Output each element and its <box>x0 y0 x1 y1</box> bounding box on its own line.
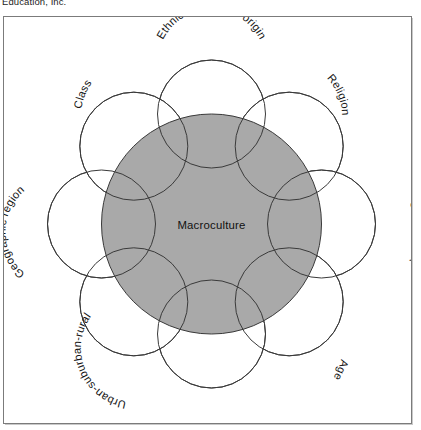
microculture-label-class: Class <box>71 77 94 110</box>
microculture-label-religion: Religion <box>325 72 352 116</box>
microculture-label-age: Age <box>332 358 351 382</box>
macroculture-microcultures-diagram: Ethnic or national origin Religion Gende… <box>4 17 411 423</box>
figure-page: Education, Inc. <box>0 0 421 430</box>
microculture-label-gender-sex: Gender/Sex <box>407 198 411 266</box>
running-header-text: Education, Inc. <box>2 0 66 7</box>
macroculture-label: Macroculture <box>177 219 245 231</box>
figure-frame-box: Ethnic or national origin Religion Gende… <box>3 16 412 424</box>
microculture-label-geographic-region: Geographic region <box>4 183 26 281</box>
microculture-label-ethnic-or-national-origin: Ethnic or national origin <box>154 17 269 41</box>
